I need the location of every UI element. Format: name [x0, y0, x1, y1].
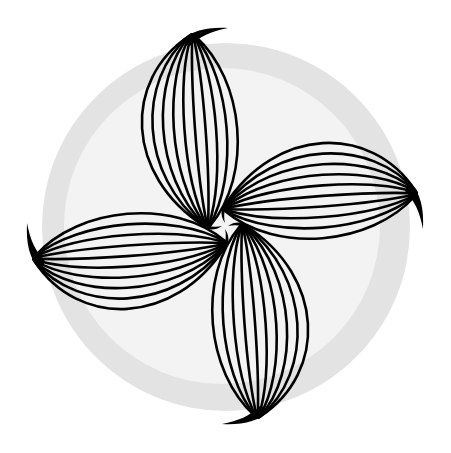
- pinwheel-illustration: [0, 0, 451, 453]
